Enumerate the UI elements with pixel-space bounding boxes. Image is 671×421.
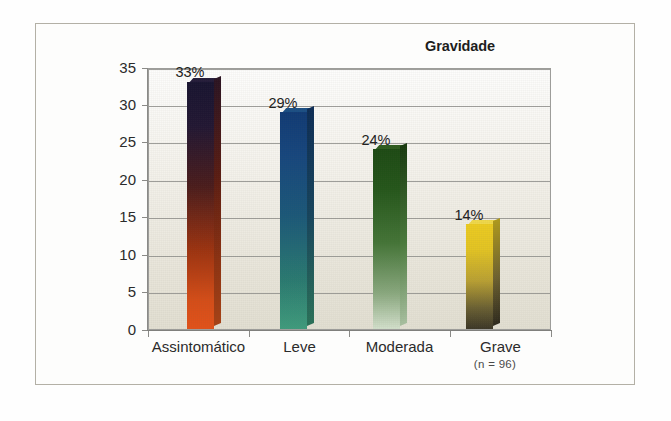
x-tick-mark-0 (148, 331, 149, 337)
y-tick-mark-30 (142, 105, 148, 106)
bar-leve[interactable] (280, 112, 307, 329)
sample-size-annotation: (n = 96) (440, 358, 550, 370)
bar-grave-front (466, 224, 493, 329)
chart-figure: Gravidade (0, 0, 671, 421)
bar-moderada-side (400, 143, 407, 326)
y-tick-mark-25 (142, 142, 148, 143)
bar-leve-front (280, 112, 307, 329)
plot-area (148, 68, 551, 330)
bar-assintomatico-front (187, 82, 214, 329)
y-tick-mark-10 (142, 255, 148, 256)
x-tick-mark-2 (349, 331, 350, 337)
x-tick-label-assintomatico: Assintomático (148, 338, 249, 355)
bar-grave[interactable] (466, 224, 493, 329)
y-tick-mark-15 (142, 217, 148, 218)
data-label-assintomatico: 33% (160, 64, 220, 80)
y-tick-mark-20 (142, 180, 148, 181)
y-tick-mark-5 (142, 292, 148, 293)
data-label-moderada: 24% (346, 132, 406, 148)
x-tick-mark-4 (551, 331, 552, 337)
y-tick-label-30: 30 (100, 96, 136, 113)
y-tick-label-25: 25 (100, 133, 136, 150)
y-tick-label-0: 0 (100, 321, 136, 338)
y-tick-label-15: 15 (100, 208, 136, 225)
x-tick-label-leve: Leve (249, 338, 350, 355)
bar-assintomatico-side (214, 76, 221, 326)
data-label-leve: 29% (253, 95, 313, 111)
x-tick-mark-3 (450, 331, 451, 337)
bar-assintomatico[interactable] (187, 82, 214, 329)
y-tick-label-35: 35 (100, 59, 136, 76)
chart-title: Gravidade (330, 38, 590, 54)
bar-grave-side (493, 218, 500, 326)
bar-moderada-front (373, 149, 400, 329)
x-tick-label-moderada: Moderada (349, 338, 450, 355)
bar-moderada[interactable] (373, 149, 400, 329)
y-tick-mark-35 (142, 68, 148, 69)
y-tick-label-5: 5 (100, 283, 136, 300)
bar-leve-side (307, 106, 314, 326)
x-tick-mark-1 (249, 331, 250, 337)
x-tick-label-grave: Grave (450, 338, 551, 355)
data-label-grave: 14% (439, 207, 499, 223)
y-tick-label-10: 10 (100, 246, 136, 263)
y-tick-label-20: 20 (100, 171, 136, 188)
